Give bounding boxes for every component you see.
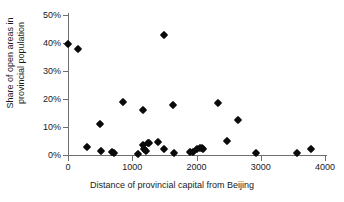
data-point [293,149,301,157]
y-axis-title-line2: provincial population [16,0,27,133]
data-point [307,145,315,153]
data-point [170,149,178,157]
y-axis-title: Share of open areas in provincial popula… [5,0,27,133]
data-point [73,45,81,53]
x-tick-mark [325,156,326,161]
y-tick-label: 0% [29,151,61,160]
x-tick-mark [261,156,262,161]
x-tick-label: 1000 [112,163,152,172]
x-tick-label: 0 [48,163,88,172]
data-point [141,147,149,155]
data-point [223,137,231,145]
y-tick-label: 40% [29,39,61,48]
y-tick-label: 10% [29,123,61,132]
x-tick-label: 2000 [177,163,217,172]
data-point [251,149,259,157]
data-point [154,137,162,145]
data-point [214,99,222,107]
data-points-layer [68,15,325,155]
data-point [96,120,104,128]
data-point [160,145,168,153]
x-tick-label: 4000 [305,163,344,172]
data-point [159,30,167,38]
x-axis-title: Distance of provincial capital from Beij… [0,180,344,191]
data-point [169,101,177,109]
scatter-chart: 0%10%20%30%40%50% 01000200030004000 Dist… [0,0,344,202]
data-point [64,40,72,48]
data-point [82,142,90,150]
y-tick-label: 50% [29,11,61,20]
x-tick-mark [197,156,198,161]
y-tick-label: 30% [29,67,61,76]
data-point [118,98,126,106]
x-tick-mark [68,156,69,161]
y-axis-title-line1: Share of open areas in [5,0,16,133]
y-tick-label: 20% [29,95,61,104]
data-point [234,116,242,124]
x-tick-mark [132,156,133,161]
data-point [138,106,146,114]
x-tick-label: 3000 [241,163,281,172]
data-point [97,147,105,155]
